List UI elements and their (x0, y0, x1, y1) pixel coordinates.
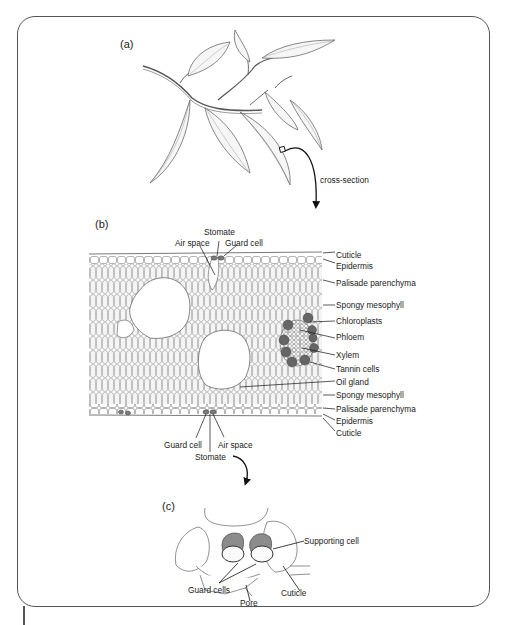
stomate-bottom-label: Stomate (195, 452, 226, 462)
label-spongy-bottom: Spongy mesophyll (336, 390, 404, 400)
branch-illustration (143, 30, 335, 185)
air-space-top-label: Air space (175, 238, 210, 248)
label-phloem: Phloem (336, 332, 364, 342)
cross-section-label: cross-section (320, 175, 369, 185)
label-palisade-bottom: Palisade parenchyma (336, 404, 416, 414)
panel-b-label: (b) (95, 218, 108, 230)
stomate-detail (175, 508, 310, 596)
label-epidermis-top: Epidermis (336, 261, 373, 271)
panel-c-label: (c) (162, 500, 175, 512)
pore-label: Pore (240, 598, 258, 608)
leaf-cross-section (89, 252, 322, 416)
botany-diagram (0, 0, 505, 625)
label-epidermis-bottom: Epidermis (336, 416, 373, 426)
label-xylem: Xylem (336, 350, 359, 360)
panel-a-label: (a) (120, 38, 133, 50)
guard-cells-label: Guard cells (188, 585, 230, 595)
guard-cell-bottom-label: Guard cell (164, 440, 202, 450)
supporting-cell-label: Supporting cell (304, 536, 359, 546)
label-spongy-top: Spongy mesophyll (336, 300, 404, 310)
cuticle-detail-label: Cuticle (281, 588, 306, 598)
stomate-to-detail-arrow (233, 456, 247, 482)
guard-cell-top-label: Guard cell (225, 238, 263, 248)
label-tannin-cells: Tannin cells (336, 364, 379, 374)
label-palisade-top: Palisade parenchyma (336, 278, 416, 288)
air-space-bottom-label: Air space (218, 440, 253, 450)
label-oil-gland: Oil gland (336, 377, 369, 387)
label-chloroplasts: Chloroplasts (336, 316, 382, 326)
label-cuticle-bottom: Cuticle (336, 428, 361, 438)
label-cuticle-top: Cuticle (336, 250, 361, 260)
stomate-top-label: Stomate (204, 227, 235, 237)
